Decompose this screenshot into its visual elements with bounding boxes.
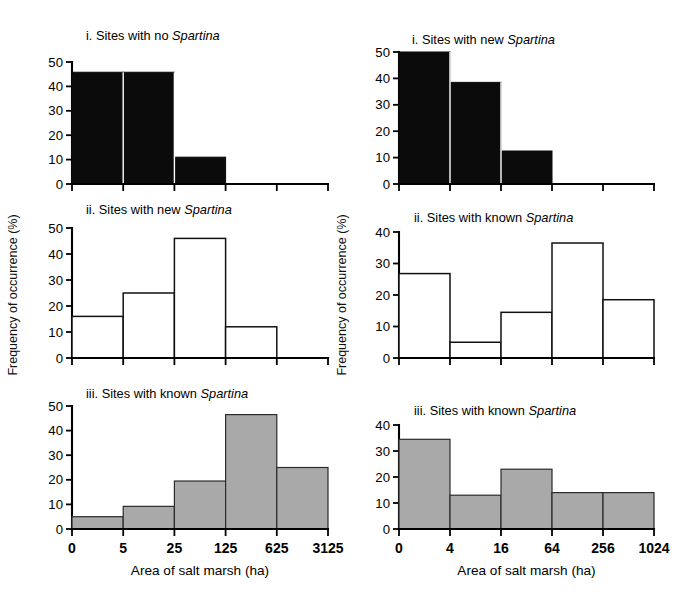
y-tick-label: 30	[48, 273, 63, 288]
y-tick-label: 0	[383, 351, 390, 366]
y-tick-label: 20	[375, 124, 390, 139]
histogram-bar	[450, 495, 501, 529]
y-tick-label: 10	[375, 496, 390, 511]
x-tick-label: 125	[214, 540, 238, 556]
y-axis-label-right: Frequency of occurrence (%)	[335, 214, 349, 375]
histogram-bar	[72, 517, 123, 529]
histogram-bar	[399, 274, 450, 358]
y-tick-label: 10	[375, 150, 390, 165]
y-tick-label: 30	[375, 444, 390, 459]
histogram-bar	[123, 506, 174, 529]
y-tick-label: 10	[48, 152, 63, 167]
chart-panel: iii. Sites with known Spartina0102030400…	[375, 403, 669, 578]
y-tick-label: 20	[48, 472, 63, 487]
y-tick-label: 20	[48, 299, 63, 314]
figure-canvas: i. Sites with no Spartina01020304050i. S…	[0, 0, 695, 600]
histogram-bar	[123, 72, 174, 184]
histogram-bar	[174, 238, 225, 358]
x-axis-title: Area of salt marsh (ha)	[131, 563, 269, 578]
histogram-bar	[450, 82, 501, 184]
chart-panel: ii. Sites with new Spartina01020304050	[48, 202, 328, 366]
x-tick-label: 4	[446, 540, 454, 556]
panel-title: iii. Sites with known Spartina	[414, 403, 576, 418]
histogram-bar	[399, 439, 450, 529]
y-tick-label: 30	[375, 97, 390, 112]
y-tick-label: 40	[375, 418, 390, 433]
chart-panel: i. Sites with no Spartina01020304050	[48, 28, 328, 192]
y-tick-label: 10	[48, 325, 63, 340]
panel-title: ii. Sites with new Spartina	[86, 202, 232, 217]
y-tick-label: 10	[375, 319, 390, 334]
y-tick-label: 20	[375, 470, 390, 485]
y-tick-label: 50	[48, 399, 63, 414]
x-tick-label: 0	[395, 540, 403, 556]
y-tick-label: 20	[48, 128, 63, 143]
y-tick-label: 30	[48, 448, 63, 463]
histogram-bar	[174, 481, 225, 529]
histogram-bar	[501, 312, 552, 358]
y-tick-label: 40	[48, 247, 63, 262]
x-axis-title: Area of salt marsh (ha)	[457, 563, 595, 578]
x-tick-label: 0	[68, 540, 76, 556]
y-tick-label: 40	[48, 79, 63, 94]
panel-title: ii. Sites with known Spartina	[414, 210, 573, 225]
y-tick-label: 30	[48, 103, 63, 118]
histogram-bar	[552, 493, 603, 529]
y-axis-label-left: Frequency of occurrence (%)	[6, 214, 20, 375]
histogram-bar	[399, 52, 450, 184]
x-tick-label: 1024	[638, 540, 669, 556]
y-tick-label: 0	[56, 177, 63, 192]
chart-panel: i. Sites with new Spartina01020304050	[375, 32, 654, 192]
x-tick-label: 625	[265, 540, 289, 556]
y-tick-label: 50	[48, 221, 63, 236]
histogram-bar	[450, 342, 501, 358]
y-tick-label: 0	[383, 522, 390, 537]
histogram-bar	[174, 157, 225, 184]
y-tick-label: 50	[48, 55, 63, 70]
y-tick-label: 50	[375, 45, 390, 60]
histogram-bar	[226, 327, 277, 358]
x-tick-label: 16	[493, 540, 509, 556]
x-tick-label: 5	[119, 540, 127, 556]
y-tick-label: 0	[383, 177, 390, 192]
x-tick-label: 256	[591, 540, 615, 556]
histogram-bar	[72, 72, 123, 184]
panel-title: i. Sites with new Spartina	[412, 32, 555, 47]
chart-panel: ii. Sites with known Spartina010203040	[375, 210, 654, 366]
y-tick-label: 0	[56, 351, 63, 366]
histogram-bar	[603, 493, 654, 529]
y-tick-label: 40	[48, 423, 63, 438]
x-tick-label: 3125	[312, 540, 343, 556]
histogram-bar	[603, 300, 654, 358]
x-tick-label: 64	[544, 540, 560, 556]
histogram-bar	[226, 415, 277, 529]
histogram-bar	[277, 468, 328, 530]
panel-title: i. Sites with no Spartina	[86, 28, 220, 43]
panel-title: iii. Sites with known Spartina	[86, 386, 248, 401]
chart-panel: iii. Sites with known Spartina0102030405…	[48, 386, 343, 578]
histogram-bar	[501, 469, 552, 529]
histogram-bar	[552, 243, 603, 358]
histogram-bar	[501, 151, 552, 184]
histogram-bar	[72, 316, 123, 358]
y-tick-label: 40	[375, 225, 390, 240]
y-tick-label: 20	[375, 288, 390, 303]
y-tick-label: 0	[56, 522, 63, 537]
y-tick-label: 40	[375, 71, 390, 86]
histogram-bar	[123, 293, 174, 358]
y-tick-label: 10	[48, 497, 63, 512]
y-tick-label: 30	[375, 256, 390, 271]
x-tick-label: 25	[167, 540, 183, 556]
